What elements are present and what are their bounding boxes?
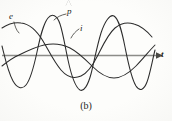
- curve-label-i: i: [80, 24, 83, 33]
- figure-container: e p i t (b): [0, 0, 172, 121]
- curve-current-i: [2, 44, 155, 78]
- curve-power-p: [2, 15, 155, 90]
- curve-label-p: p: [67, 7, 72, 16]
- leader-line-e: [14, 22, 19, 33]
- leader-line-i: [71, 29, 79, 38]
- axis-label-t: t: [161, 50, 164, 59]
- curve-label-e: e: [9, 12, 13, 21]
- figure-caption: (b): [0, 100, 172, 111]
